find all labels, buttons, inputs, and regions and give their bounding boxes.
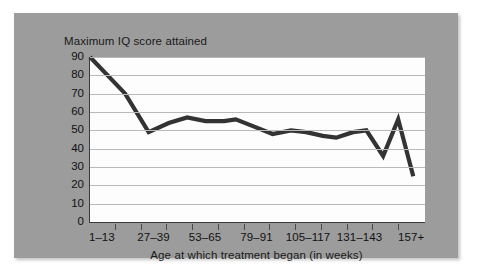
y-tick-label: 10 <box>71 198 84 210</box>
x-tick-mark <box>347 224 348 230</box>
plot-title: Maximum IQ score attained <box>64 35 207 47</box>
x-tick-mark <box>295 224 296 230</box>
x-tick-label: 157+ <box>398 231 424 243</box>
x-tick-mark <box>244 224 245 230</box>
x-tick-mark <box>141 224 142 230</box>
x-tick-mark <box>269 224 270 230</box>
gridline <box>90 112 425 113</box>
x-tick-label: 1–13 <box>89 231 115 243</box>
x-tick-mark <box>321 224 322 230</box>
y-tick-label: 90 <box>71 51 84 63</box>
y-tick-label: 20 <box>71 179 84 191</box>
x-tick-mark <box>372 224 373 230</box>
y-tick-label: 30 <box>71 161 84 173</box>
x-tick-label: 105–117 <box>286 231 331 243</box>
gridline <box>90 204 425 205</box>
x-tick-mark <box>166 224 167 230</box>
y-tick-label: 80 <box>71 69 84 81</box>
gridline <box>90 94 425 95</box>
gridline <box>90 149 425 150</box>
x-tick-label: 131–143 <box>337 231 382 243</box>
y-tick-label: 60 <box>71 106 84 118</box>
gridline <box>90 75 425 76</box>
x-axis-tick-marks <box>89 224 424 230</box>
y-tick-label: 0 <box>78 216 84 228</box>
chart-figure: Maximum IQ score attained 01020304050607… <box>0 0 483 277</box>
gridline <box>90 185 425 186</box>
gridline <box>90 130 425 131</box>
y-axis-tick-labels: 0102030405060708090 <box>58 57 84 222</box>
chart-panel: Maximum IQ score attained 01020304050607… <box>14 13 458 258</box>
x-tick-label: 53–65 <box>189 231 221 243</box>
plot-area <box>89 57 425 223</box>
x-tick-mark <box>192 224 193 230</box>
x-tick-label: 27–39 <box>137 231 169 243</box>
x-tick-mark <box>115 224 116 230</box>
x-axis-caption: Age at which treatment began (in weeks) <box>89 249 424 261</box>
y-tick-label: 50 <box>71 124 84 136</box>
x-tick-label: 79–91 <box>240 231 272 243</box>
data-series-line <box>90 57 425 222</box>
gridline <box>90 57 425 58</box>
x-tick-mark <box>398 224 399 230</box>
x-axis-tick-labels: 1–1327–3953–6579–91105–117131–143157+ <box>89 231 424 247</box>
y-tick-label: 70 <box>71 88 84 100</box>
gridline <box>90 167 425 168</box>
y-tick-label: 40 <box>71 143 84 155</box>
x-tick-mark <box>218 224 219 230</box>
